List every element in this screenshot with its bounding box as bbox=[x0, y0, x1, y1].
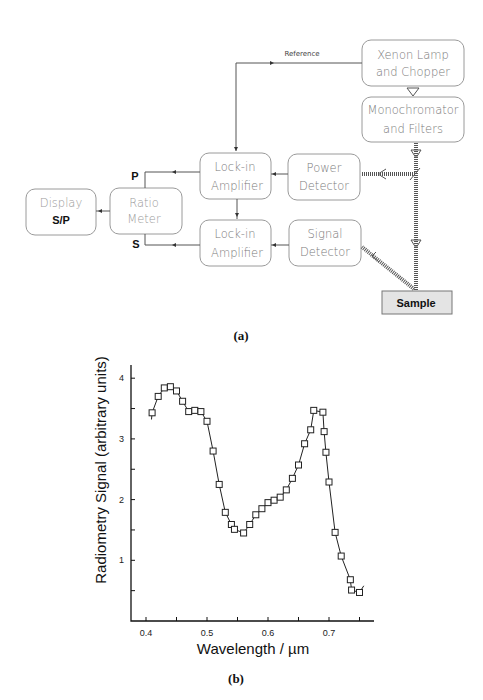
beam-arrow-icon bbox=[407, 88, 419, 96]
arrow-icon bbox=[98, 209, 102, 213]
y-tick-label: 4 bbox=[119, 373, 124, 383]
caption-b: (b) bbox=[228, 671, 244, 686]
y-axis-ticks: 1234 bbox=[119, 373, 135, 590]
data-point bbox=[349, 587, 355, 593]
data-point bbox=[253, 512, 259, 518]
port-p-label: P bbox=[131, 170, 138, 182]
data-point bbox=[320, 409, 326, 415]
arrow-icon bbox=[270, 61, 274, 65]
data-point bbox=[167, 384, 173, 390]
mono-line1: Monochromator bbox=[368, 103, 459, 117]
data-point bbox=[210, 448, 216, 454]
data-point bbox=[198, 409, 204, 415]
lockin-bottom-line2: Amplifier bbox=[211, 246, 263, 260]
data-point bbox=[323, 449, 329, 455]
sample-box: Sample bbox=[382, 291, 452, 314]
s-wire bbox=[145, 234, 200, 245]
data-point bbox=[149, 410, 155, 416]
data-point bbox=[271, 497, 277, 503]
caption-a: (a) bbox=[233, 328, 248, 343]
ratio-line1: Ratio bbox=[129, 196, 159, 210]
y-tick-label: 1 bbox=[119, 555, 124, 565]
signal-line2: Detector bbox=[300, 245, 350, 259]
xenon-line2: and Chopper bbox=[376, 65, 450, 79]
y-tick-label: 3 bbox=[119, 434, 124, 444]
chart-axes bbox=[131, 365, 374, 621]
sample-label: Sample bbox=[396, 297, 435, 309]
data-point bbox=[192, 407, 198, 413]
arrow-icon bbox=[172, 170, 176, 174]
data-point bbox=[338, 553, 344, 559]
y-axis-label: Radiometry Signal (arbitrary units) bbox=[92, 356, 109, 584]
data-point bbox=[247, 521, 253, 527]
data-point bbox=[326, 479, 332, 485]
data-point bbox=[155, 393, 161, 399]
lockin-top-line2: Amplifier bbox=[211, 179, 263, 193]
data-point bbox=[259, 506, 265, 512]
xenon-lamp-box: Xenon Lamp and Chopper bbox=[362, 40, 464, 86]
x-tick-label: 0.4 bbox=[140, 628, 153, 638]
mono-line2: and Filters bbox=[383, 122, 443, 136]
data-point bbox=[308, 427, 314, 433]
signal-detector-box: Signal Detector bbox=[289, 220, 361, 266]
ratio-line2: Meter bbox=[127, 212, 161, 226]
display-box: Display S/P bbox=[26, 189, 96, 235]
power-line2: Detector bbox=[299, 179, 349, 193]
data-point bbox=[180, 398, 186, 404]
data-point bbox=[222, 509, 228, 515]
signal-curve bbox=[151, 387, 363, 593]
arrow-icon bbox=[272, 172, 276, 176]
data-point bbox=[277, 494, 283, 500]
power-line1: Power bbox=[307, 161, 342, 175]
data-point bbox=[311, 407, 317, 413]
lockin-bottom-line1: Lock-in bbox=[215, 227, 256, 241]
power-detector-box: Power Detector bbox=[288, 154, 360, 200]
lockin-top-line1: Lock-in bbox=[215, 160, 256, 174]
data-point bbox=[161, 385, 167, 391]
reference-label: Reference bbox=[284, 50, 319, 58]
monochromator-box: Monochromator and Filters bbox=[362, 97, 464, 142]
data-point bbox=[347, 577, 353, 583]
data-point bbox=[283, 487, 289, 493]
data-point bbox=[174, 388, 180, 394]
data-point bbox=[265, 500, 271, 506]
port-s-label: S bbox=[132, 238, 139, 250]
reference-wire bbox=[236, 63, 362, 151]
display-line1: Display bbox=[40, 196, 83, 210]
data-point bbox=[204, 418, 210, 424]
data-point bbox=[216, 481, 222, 487]
lockin-amplifier-top-box: Lock-in Amplifier bbox=[200, 153, 271, 199]
arrow-icon bbox=[235, 213, 239, 217]
display-sp-label: S/P bbox=[52, 214, 70, 226]
signal-line1: Signal bbox=[308, 227, 343, 241]
data-markers bbox=[149, 384, 362, 596]
data-point bbox=[296, 462, 302, 468]
spectrum-chart: 0.40.50.60.7 1234 Wavelength / µm Radiom… bbox=[92, 356, 374, 686]
data-point bbox=[241, 530, 247, 536]
data-point bbox=[231, 526, 237, 532]
lockin-amplifier-bottom-box: Lock-in Amplifier bbox=[200, 220, 271, 266]
data-point bbox=[289, 475, 295, 481]
x-axis-label: Wavelength / µm bbox=[197, 640, 309, 657]
arrow-icon bbox=[272, 243, 276, 247]
ratio-meter-box: Ratio Meter bbox=[110, 188, 182, 234]
x-tick-label: 0.6 bbox=[262, 628, 275, 638]
optical-beam-to-signal bbox=[362, 247, 414, 289]
arrow-icon bbox=[172, 243, 176, 247]
block-diagram: Xenon Lamp and Chopper Monochromator and… bbox=[26, 40, 464, 343]
y-tick-label: 2 bbox=[119, 495, 124, 505]
data-point bbox=[321, 429, 327, 435]
x-tick-label: 0.5 bbox=[201, 628, 214, 638]
data-point bbox=[302, 441, 308, 447]
arrow-icon bbox=[234, 147, 238, 151]
x-axis-ticks: 0.40.50.60.7 bbox=[140, 617, 360, 638]
x-tick-label: 0.7 bbox=[323, 628, 336, 638]
p-wire bbox=[145, 172, 200, 188]
xenon-line1: Xenon Lamp bbox=[377, 48, 449, 62]
figure: Xenon Lamp and Chopper Monochromator and… bbox=[0, 0, 483, 700]
data-point bbox=[357, 589, 363, 595]
data-point bbox=[332, 529, 338, 535]
data-point bbox=[186, 409, 192, 415]
